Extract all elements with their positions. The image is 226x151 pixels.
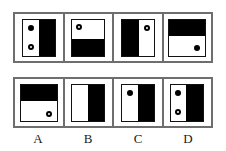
figure-option-c (121, 84, 155, 122)
option-label-b: B (63, 129, 113, 149)
options-row (13, 77, 213, 128)
dot-open-bottom-right (46, 111, 52, 117)
figure-problem-2 (71, 19, 105, 57)
black-region-right (88, 85, 104, 121)
option-cell-a[interactable] (15, 79, 65, 126)
option-labels: A B C D (13, 129, 213, 149)
option-cell-c[interactable] (114, 79, 164, 126)
dot-filled-top-left (28, 25, 34, 31)
figure-problem-4 (168, 19, 206, 57)
figure-problem-1 (22, 19, 56, 57)
visual-analogy-puzzle: A B C D (0, 0, 226, 151)
black-region-right (39, 20, 55, 56)
figure-option-d (170, 84, 204, 122)
problem-cell-1[interactable] (15, 14, 65, 61)
dot-open-top-right (144, 25, 150, 31)
figure-option-a (20, 84, 58, 122)
dot-filled-top-left (127, 90, 133, 96)
problem-cell-2[interactable] (65, 14, 115, 61)
problem-cell-4[interactable] (164, 14, 212, 61)
problem-row (13, 12, 213, 63)
black-region-right (138, 85, 154, 121)
dot-filled-top-left (175, 90, 181, 96)
option-label-c: C (113, 129, 163, 149)
problem-cell-3[interactable] (114, 14, 164, 61)
black-region-right (186, 85, 204, 121)
figure-problem-3 (121, 19, 155, 57)
black-region-top (21, 85, 57, 101)
option-cell-b[interactable] (65, 79, 115, 126)
dot-open-top-left (76, 24, 82, 30)
dot-open-bottom-left (28, 44, 34, 50)
black-region-top (169, 20, 205, 36)
figure-option-b (71, 84, 105, 122)
dot-filled-bottom-right (194, 45, 200, 51)
option-label-d: D (163, 129, 213, 149)
option-label-a: A (13, 129, 63, 149)
option-cell-d[interactable] (164, 79, 212, 126)
black-region-bottom (72, 39, 104, 55)
black-region-left (122, 20, 140, 56)
dot-open-bottom-left (175, 109, 181, 115)
